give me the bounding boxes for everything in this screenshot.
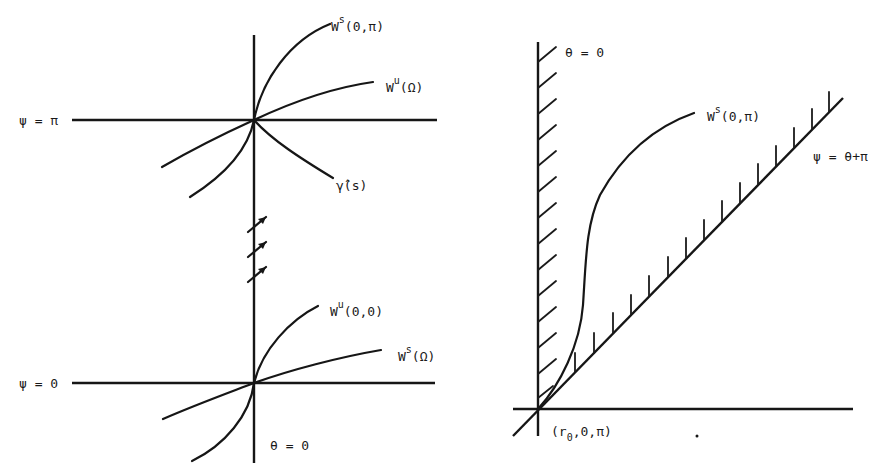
left-panel: ψ = π ψ = 0 Ws(0,π) Wu(Ω) γ̂(s): [19, 14, 437, 463]
ws-0-pi-label-right: Ws(0,π): [707, 104, 760, 124]
right-panel: θ = 0 ψ = θ+π Ws(0,π): [513, 42, 868, 443]
vertical-boundary-hatches: [538, 47, 556, 398]
ws-omega-curve: [163, 350, 381, 419]
theta-zero-label-left: θ = 0: [270, 438, 309, 453]
flow-arrows: [248, 217, 266, 282]
theta-zero-label-right: θ = 0: [565, 45, 604, 60]
flow-arrow-icon: [248, 267, 266, 282]
psi-pi-label: ψ = π: [19, 113, 58, 128]
gamma-hat-curve: [254, 120, 333, 178]
stray-dot: [696, 435, 699, 438]
flow-arrow-icon: [248, 242, 266, 257]
diagonal-boundary-hatches: [575, 92, 829, 372]
ws-0-pi-curve-right: [538, 113, 694, 409]
psi-zero-label: ψ = 0: [19, 376, 58, 391]
figure: ψ = π ψ = 0 Ws(0,π) Wu(Ω) γ̂(s): [0, 0, 881, 476]
psi-theta-pi-label: ψ = θ+π: [813, 149, 868, 164]
wu-0-0-label: Wu(0,0): [330, 299, 383, 319]
wu-omega-label: Wu(Ω): [386, 75, 423, 95]
ws-0-pi-label-left: Ws(0,π): [331, 14, 384, 34]
wu-omega-curve: [162, 82, 373, 167]
ws-0-pi-curve: [190, 24, 330, 197]
ws-omega-label: Ws(Ω): [398, 344, 435, 364]
origin-label: (r0,0,π): [551, 424, 612, 443]
gamma-hat-label: γ̂(s): [336, 178, 367, 193]
flow-arrow-icon: [248, 217, 266, 232]
